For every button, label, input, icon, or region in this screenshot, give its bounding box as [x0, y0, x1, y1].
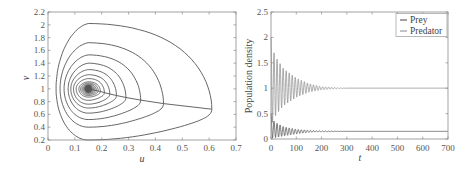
left-y-axis-label: v: [20, 75, 31, 80]
left-x-axis-label: u: [140, 153, 145, 164]
y-tick-label: 2.2: [34, 7, 45, 17]
legend-prey-label: Prey: [410, 15, 428, 25]
y-tick-label: 1.8: [34, 33, 46, 43]
x-tick-label: 0.5: [177, 143, 189, 153]
y-tick-label: 0.4: [34, 122, 46, 132]
left-y-axis-ticks: 0.20.40.60.811.21.41.61.822.2: [34, 7, 236, 145]
x-tick-label: 0: [269, 143, 274, 153]
prey-line: [271, 114, 448, 138]
y-tick-label: 0.8: [34, 97, 46, 107]
x-tick-label: 200: [315, 143, 329, 153]
x-tick-label: 0.7: [230, 143, 242, 153]
x-tick-label: 400: [365, 143, 379, 153]
y-tick-label: 1: [264, 83, 269, 93]
population-series: [271, 37, 448, 138]
y-tick-label: 1.2: [34, 71, 45, 81]
x-tick-label: 500: [391, 143, 405, 153]
y-tick-label: 0: [264, 134, 269, 144]
x-tick-label: 0.4: [150, 143, 162, 153]
legend: Prey Predator: [396, 14, 447, 37]
y-tick-label: 2: [264, 32, 269, 42]
y-tick-label: 0.2: [34, 135, 45, 145]
x-tick-label: 100: [290, 143, 304, 153]
y-tick-label: 2: [41, 20, 46, 30]
x-tick-label: 700: [441, 143, 455, 153]
equilibrium-point: [85, 85, 92, 93]
spiral-trajectory: [56, 24, 212, 141]
y-tick-label: 0.5: [257, 109, 269, 119]
x-tick-label: 0: [46, 143, 51, 153]
x-tick-label: 0.3: [123, 143, 135, 153]
y-tick-label: 1.5: [257, 58, 269, 68]
phase-trajectory: [56, 24, 212, 141]
right-x-axis-label: t: [359, 152, 362, 163]
y-tick-label: 2.5: [257, 7, 269, 17]
x-tick-label: 600: [416, 143, 430, 153]
x-tick-label: 0.6: [204, 143, 216, 153]
y-tick-label: 0.6: [34, 109, 46, 119]
x-tick-label: 300: [340, 143, 354, 153]
right-y-axis-label: Population density: [243, 39, 254, 114]
legend-predator-label: Predator: [410, 26, 443, 36]
y-tick-label: 1.6: [34, 45, 46, 55]
x-tick-label: 0.1: [69, 143, 80, 153]
figure: 00.10.20.30.40.50.60.7 0.20.40.60.811.21…: [0, 0, 475, 170]
time-series-plot: 0100200300400500600700 00.511.522.5 t Po…: [243, 7, 455, 163]
y-tick-label: 1.4: [34, 58, 46, 68]
x-tick-label: 0.2: [96, 143, 107, 153]
predator-line: [271, 37, 448, 122]
y-tick-label: 1: [41, 84, 46, 94]
phase-portrait-plot: 00.10.20.30.40.50.60.7 0.20.40.60.811.21…: [20, 7, 242, 164]
